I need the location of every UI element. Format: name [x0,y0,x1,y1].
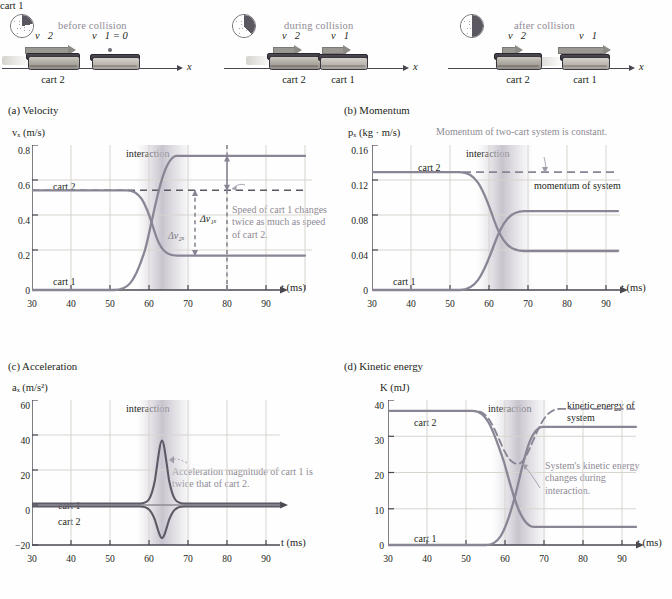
cart1-name-during: cart 1 [320,74,366,85]
chart-d-ytick-3: 10 [358,505,384,516]
cart1-before [92,57,138,68]
chart-b-ytick-3: 0.04 [336,250,368,261]
chart-d-ytick-0: 40 [358,400,384,411]
chart-c-plot [32,400,312,565]
chart-d-ytick-1: 30 [358,435,384,446]
chart-c-ytick-1: 40 [4,435,30,446]
chart-b-ytick-4: 0 [336,285,368,296]
cart1-name-before: cart 1 [0,0,24,11]
chart-b-plot [372,145,652,310]
velocity-label-cart1-after: v⃗1 [579,30,597,41]
chart-d-ylabel: K (mJ) [380,382,409,393]
cart2-during [269,56,319,68]
cart1-name-after: cart 1 [562,74,608,85]
chart-c-ytick-2: 20 [4,470,30,481]
velocity-label-cart2-during: v⃗2 [282,30,300,41]
velocity-label-cart2-after: v⃗2 [508,30,526,41]
x-axis-label-before: x [187,61,192,72]
velocity-zero-dot-cart1-before [108,48,112,52]
chart-a-plot [32,145,312,310]
cart1-during [320,57,366,68]
chart-b-ylabel: pₓ (kg · m/s) [348,127,400,138]
chart-b-title: (b) Momentum [344,104,410,116]
chart-d-ytick-4: 0 [358,540,384,551]
chart-a-ytick-2: 0.4 [4,215,30,226]
chart-b-ytick-1: 0.12 [336,180,368,191]
chart-a-title: (a) Velocity [8,104,58,116]
x-axis-arrowhead-after [629,65,635,71]
chart-d-ytick-2: 20 [358,470,384,481]
velocity-label-cart1-during: v⃗1 [331,30,349,41]
cart2-name-after: cart 2 [496,74,540,85]
clock-icon-during [232,14,256,38]
x-axis-label-after: x [639,61,644,72]
chart-c-title: (c) Acceleration [8,360,77,372]
cart2-before [28,56,78,68]
scene-before-collision: before collision v⃗2 v⃗1 = 0⃗ x cart 2 c… [0,0,224,100]
velocity-label-cart2-before: v⃗2 [35,30,53,41]
chart-d-plot [388,400,668,565]
chart-a-ytick-4: 0 [4,285,30,296]
chart-a-ytick-1: 0.6 [4,180,30,191]
x-axis-arrowhead-before [177,65,183,71]
chart-b-annotation-note: Momentum of two-cart system is constant. [436,126,651,138]
clock-icon-after [460,14,484,38]
chart-d-title: (d) Kinetic energy [344,360,423,372]
chart-a-ytick-3: 0.2 [4,250,30,261]
chart-c-ytick-3: 0 [4,505,30,516]
x-axis-arrowhead-during [403,65,409,71]
chart-a-ytick-0: 0.8 [4,145,30,156]
velocity-label-cart1-before: v⃗1 = 0⃗ [92,30,136,41]
cart2-after [496,56,540,68]
scene-during-collision: during collision v⃗2 v⃗1 x cart 2 cart 1 [224,0,448,100]
chart-c-ytick-0: 60 [4,400,30,411]
chart-a-ylabel: vₓ (m/s) [12,127,45,138]
clock-icon-before [10,14,34,38]
chart-c-ylabel: aₓ (m/s²) [12,382,48,393]
scene-after-collision: after collision v⃗2 v⃗1 x cart 2 cart 1 [448,0,672,100]
x-axis-label-during: x [413,61,418,72]
cart2-name-during: cart 2 [269,74,319,85]
chart-c-ytick-4: −20 [0,540,30,551]
cart2-name-before: cart 2 [28,74,78,85]
chart-b-ytick-0: 0.16 [336,145,368,156]
chart-b-ytick-2: 0.08 [336,215,368,226]
cart1-after [562,57,608,68]
velocity-arrow-cart1-after [558,47,606,54]
